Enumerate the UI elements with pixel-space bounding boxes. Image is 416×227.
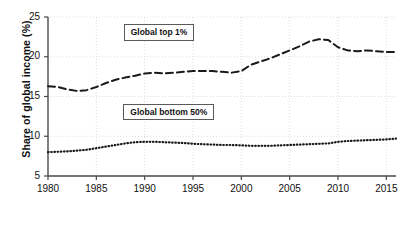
- series-label-bottom-50-percent: Global bottom 50%: [123, 104, 214, 121]
- series-label-top-1-percent: Global top 1%: [124, 24, 195, 41]
- series-line-bottom-50-percent: [48, 139, 396, 153]
- series-line-top-1-percent: [48, 39, 396, 91]
- chart-container: Share of global income (%) 510152025 198…: [0, 0, 416, 227]
